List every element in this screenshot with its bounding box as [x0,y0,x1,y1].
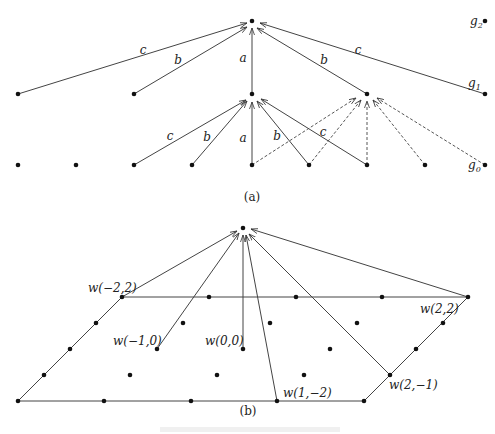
arrow-to-apex [122,231,237,297]
point-label: w(−1,0) [113,334,162,348]
lattice-point [362,399,367,404]
row0-node [307,163,312,168]
lattice-diagram: cbabccbabc (a) g2 g1 g0 w(−2,2)w(−1,0)w(… [0,0,495,434]
lattice-point [42,373,47,378]
arrow-to-apex [246,235,277,401]
faint-figure-caption [160,427,340,432]
lattice-point [68,347,73,352]
lattice-point [120,295,125,300]
lattice-point [102,399,107,404]
lattice-point [128,373,133,378]
lattice-point [441,321,446,326]
row0-node [365,163,370,168]
lattice-point [215,373,220,378]
point-label: w(2,−1) [389,378,438,392]
edge-label-c: c [320,125,327,139]
edge-c [18,23,247,94]
edge-b [134,27,247,94]
lattice-point [302,373,307,378]
arrow-to-apex [249,234,390,375]
edge-label-b: b [320,53,328,67]
panel-a-diagram: cbabccbabc [16,19,488,168]
top-node [250,19,255,24]
edge-label-c: c [355,43,362,57]
dashed-edge [373,100,425,165]
lattice-point [94,321,99,326]
lattice-point [268,321,273,326]
arrow-to-apex [251,229,468,297]
edge-label-b: b [273,129,281,143]
lattice-point [466,295,471,300]
level-label-g1: g1 [468,76,481,92]
row1-node [483,92,488,97]
dashed-edge [252,98,356,165]
row0-node [483,163,488,168]
row1-node [132,92,137,97]
apex-node [241,226,246,231]
row1-node [16,92,21,97]
row1-node [365,92,370,97]
edge-b [257,101,309,165]
lattice-point [275,399,280,404]
lattice-point [181,321,186,326]
dashed-edge [377,98,485,165]
point-label: w(1,−2) [283,386,332,400]
dashed-edge [309,100,361,165]
row0-node [250,163,255,168]
lattice-point [207,295,212,300]
lattice-point [189,399,194,404]
lattice-point [16,399,21,404]
panel-b-caption: (b) [239,404,256,418]
lattice-point [328,347,333,352]
arrow-to-apex [157,233,239,349]
lattice-point [388,373,393,378]
edge-label-a: a [239,51,246,65]
lattice-point [380,295,385,300]
point-label: w(0,0) [205,334,244,348]
lattice-point [414,347,419,352]
row0-node [132,163,137,168]
g2-node [483,19,488,24]
row0-node [74,163,79,168]
edge-label-b: b [203,130,211,144]
edge-c [134,100,246,165]
point-label: w(−2,2) [88,281,137,295]
point-label: w(2,2) [420,302,459,316]
lattice-point [355,321,360,326]
row0-node [190,163,195,168]
row1-node [250,92,255,97]
edge-label-b: b [174,53,182,67]
edge-label-c: c [140,43,147,57]
edge-b [257,28,367,94]
lattice-point [294,295,299,300]
row0-node [423,163,428,168]
edge-c [260,23,485,94]
panel-a-caption: (a) [244,190,261,204]
level-label-g0: g0 [468,158,481,174]
edge-label-c: c [167,129,174,143]
row0-node [16,163,21,168]
panel-b-diagram: w(−2,2)w(−1,0)w(0,0)w(1,−2)w(2,−1)w(2,2) [16,226,471,404]
level-label-g2: g2 [470,14,483,30]
edge-label-a: a [239,131,246,145]
